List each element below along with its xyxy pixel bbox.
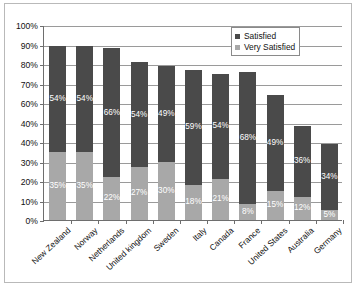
legend-swatch-very-satisfied: [235, 45, 240, 50]
bar-value-label-very-satisfied: 35%: [49, 182, 66, 190]
y-axis-tick: [40, 104, 44, 105]
bar-column[interactable]: 68%8%: [239, 72, 256, 220]
y-axis-tick: [40, 26, 44, 27]
x-axis-tick: [261, 220, 262, 224]
x-axis-tick: [126, 220, 127, 224]
legend-item-satisfied: Satisfied: [235, 31, 295, 41]
bar-value-label-very-satisfied: 30%: [158, 187, 175, 195]
bar-column[interactable]: 54%35%: [49, 46, 66, 220]
y-axis-label: 0%: [5, 217, 38, 226]
bar-value-label-satisfied: 54%: [131, 111, 148, 119]
y-axis-label: 20%: [5, 178, 38, 187]
bar-column[interactable]: 54%21%: [212, 74, 229, 220]
bar-value-label-very-satisfied: 8%: [239, 208, 256, 216]
y-axis-tick: [40, 85, 44, 86]
bar-column[interactable]: 49%30%: [158, 66, 175, 220]
legend-label-very-satisfied: Very Satisfied: [244, 43, 295, 51]
bar-value-label-satisfied: 59%: [185, 123, 202, 131]
y-axis-label: 10%: [5, 198, 38, 207]
x-axis-tick: [98, 220, 99, 224]
bar-value-label-very-satisfied: 15%: [267, 201, 284, 209]
legend-label-satisfied: Satisfied: [244, 32, 276, 40]
y-axis-label: 100%: [5, 22, 38, 31]
bar-value-label-satisfied: 34%: [321, 173, 338, 181]
y-axis-label: 90%: [5, 42, 38, 51]
y-axis-tick: [40, 182, 44, 183]
y-axis-tick: [40, 124, 44, 125]
y-axis-tick: [40, 202, 44, 203]
y-axis-label: 60%: [5, 100, 38, 109]
bar-value-label-very-satisfied: 22%: [103, 194, 120, 202]
bar-value-label-very-satisfied: 12%: [294, 204, 311, 212]
y-axis-tick: [40, 163, 44, 164]
x-axis-tick: [71, 220, 72, 224]
bar-value-label-satisfied: 49%: [267, 139, 284, 147]
bar-column[interactable]: 34%5%: [321, 144, 338, 220]
x-axis-tick: [234, 220, 235, 224]
bar-value-label-satisfied: 68%: [239, 134, 256, 142]
bar-column[interactable]: 54%27%: [131, 62, 148, 220]
bar-value-label-satisfied: 49%: [158, 110, 175, 118]
bar-column[interactable]: 59%18%: [185, 70, 202, 220]
bar-value-label-satisfied: 54%: [76, 95, 93, 103]
bar-value-label-satisfied: 36%: [294, 157, 311, 165]
bar-value-label-satisfied: 54%: [49, 95, 66, 103]
y-axis-tick: [40, 46, 44, 47]
bar-column[interactable]: 54%35%: [76, 46, 93, 220]
y-axis-label: 80%: [5, 61, 38, 70]
x-axis-tick: [316, 220, 317, 224]
y-axis-label: 40%: [5, 120, 38, 129]
bar-column[interactable]: 66%22%: [103, 48, 120, 220]
x-axis-tick: [180, 220, 181, 224]
bar-value-label-satisfied: 54%: [212, 122, 229, 130]
bar-value-label-very-satisfied: 27%: [131, 189, 148, 197]
bar-value-label-very-satisfied: 5%: [321, 211, 338, 219]
bar-column[interactable]: 49%15%: [267, 95, 284, 220]
bar-column[interactable]: 36%12%: [294, 126, 311, 220]
bar-value-label-very-satisfied: 18%: [185, 198, 202, 206]
legend-item-very-satisfied: Very Satisfied: [235, 42, 295, 52]
y-axis-label: 40%: [5, 139, 38, 148]
y-axis-label: 30%: [5, 159, 38, 168]
y-axis-tick: [40, 221, 44, 222]
x-axis-tick: [343, 220, 344, 224]
x-axis-tick: [153, 220, 154, 224]
x-axis-tick: [289, 220, 290, 224]
bar-value-label-satisfied: 66%: [103, 109, 120, 117]
bar-value-label-very-satisfied: 35%: [76, 182, 93, 190]
legend-swatch-satisfied: [235, 34, 240, 39]
y-axis-tick: [40, 143, 44, 144]
x-axis-tick: [207, 220, 208, 224]
y-axis-tick: [40, 65, 44, 66]
chart-legend: Satisfied Very Satisfied: [231, 27, 300, 56]
bar-value-label-very-satisfied: 21%: [212, 195, 229, 203]
chart-frame: 100%90%80%70%60%40%40%30%20%10%0% 54%35%…: [4, 3, 352, 283]
y-axis-label: 70%: [5, 81, 38, 90]
